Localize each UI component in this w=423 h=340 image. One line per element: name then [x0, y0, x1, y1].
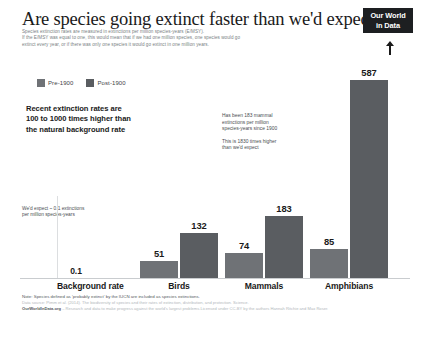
bar-rect[interactable] — [180, 233, 218, 278]
bar-rect[interactable] — [310, 249, 348, 278]
bar-rect[interactable] — [225, 253, 263, 278]
bar-amphibians-pre-1900[interactable]: 85 — [310, 236, 348, 278]
bar-value-label: 51 — [154, 248, 164, 259]
bar-group-background-rate: 0.1 — [57, 266, 95, 278]
bar-value-label: 74 — [239, 240, 249, 251]
bar-value-label: 132 — [191, 220, 206, 231]
bar-rect[interactable] — [265, 216, 303, 278]
bar-rect[interactable] — [140, 261, 178, 278]
footer-owid-line[interactable]: OurWorldInData.org – Research and data t… — [22, 306, 412, 312]
bar-amphibians-post-1900[interactable]: 587 — [350, 67, 388, 278]
bar-value-label: 0.1 — [70, 266, 82, 276]
bar-background-rate-pre-1900[interactable]: 0.1 — [57, 266, 95, 278]
category-label-amphibians: Amphibians — [310, 281, 388, 291]
category-label-background-rate: Background rate — [57, 281, 95, 291]
bar-mammals-pre-1900[interactable]: 74 — [225, 240, 263, 278]
footer-license: Licensed under CC-BY by the authors Hann… — [200, 306, 328, 311]
bar-group-amphibians: 85587 — [310, 67, 388, 278]
chart-footer: Note: Species defined as 'probably extin… — [22, 294, 412, 311]
footer-owid-brand: OurWorldInData.org — [22, 306, 61, 311]
category-label-birds: Birds — [140, 281, 218, 291]
bar-birds-post-1900[interactable]: 132 — [180, 220, 218, 278]
bar-birds-pre-1900[interactable]: 51 — [140, 248, 178, 278]
bar-value-label: 85 — [324, 236, 334, 247]
bar-value-label: 183 — [276, 203, 291, 214]
bar-value-label: 587 — [361, 67, 376, 78]
footer-owid-rest: – Research and data to make progress aga… — [61, 306, 200, 311]
x-axis-baseline — [20, 278, 410, 279]
bar-group-mammals: 74183 — [225, 203, 303, 278]
chart-page: Are species going extinct faster than we… — [0, 0, 423, 340]
bar-group-birds: 51132 — [140, 220, 218, 278]
bar-mammals-post-1900[interactable]: 183 — [265, 203, 303, 278]
chart-plot-area: 0.1511327418385587 Background rateBirdsM… — [0, 0, 423, 340]
category-label-mammals: Mammals — [225, 281, 303, 291]
bar-rect[interactable] — [350, 80, 388, 278]
